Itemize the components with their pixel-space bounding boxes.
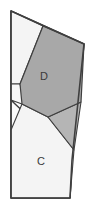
figure-container: D C	[0, 0, 92, 212]
polygon-partition-diagram: D C	[0, 0, 92, 212]
region-label-d: D	[40, 70, 48, 82]
region-label-c: C	[37, 155, 45, 167]
